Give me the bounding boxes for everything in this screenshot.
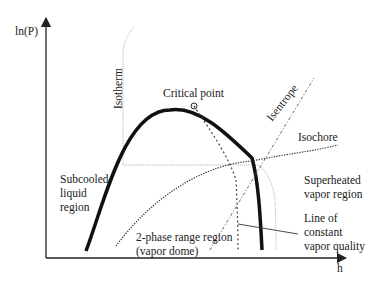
isotherm-label: Isotherm bbox=[112, 68, 124, 109]
subcooled-label-2: liquid bbox=[60, 187, 87, 200]
isotherm-line bbox=[123, 27, 276, 250]
quality-label-2: constant bbox=[304, 226, 343, 238]
two-phase-label-2: (vapor dome) bbox=[136, 245, 198, 258]
quality-pointer bbox=[238, 224, 298, 234]
isentrope-label: Isentrope bbox=[264, 82, 301, 124]
subcooled-label-1: Subcooled bbox=[60, 173, 109, 185]
subcooled-label-3: region bbox=[60, 201, 90, 214]
quality-label-3: vapor quality bbox=[304, 240, 365, 253]
superheated-label-2: vapor region bbox=[304, 188, 363, 201]
isochore-label: Isochore bbox=[298, 131, 338, 143]
ph-diagram: ln(P) h Critical point Isotherm Isentrop… bbox=[0, 0, 377, 286]
h-axis-label: h bbox=[337, 262, 343, 274]
superheated-label-1: Superheated bbox=[304, 174, 361, 187]
y-axis-label: ln(P) bbox=[15, 25, 38, 38]
critical-point-label: Critical point bbox=[163, 87, 225, 100]
two-phase-label-1: 2-phase range region bbox=[136, 231, 233, 244]
quality-label-1: Line of bbox=[304, 212, 338, 224]
